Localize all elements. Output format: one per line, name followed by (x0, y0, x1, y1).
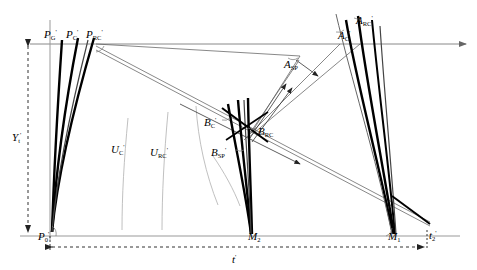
curve-left-4 (52, 40, 88, 232)
label-B-SP-prime: BSP' (211, 143, 226, 159)
left-curve-cluster (52, 38, 94, 232)
label-P-RC-prime: PRC' (86, 25, 103, 41)
label-t-prime: t' (232, 250, 236, 266)
label-A-SP-prime: ASP' (284, 55, 299, 71)
label-P-G-prime: PG' (44, 25, 57, 41)
label-P-0-prime: P0' (38, 227, 49, 243)
chord-right (392, 196, 430, 224)
arc-URC (162, 112, 168, 230)
label-U-RC-prime: URC' (150, 143, 168, 159)
label-Y-t-prime: Yt' (12, 128, 21, 144)
angle-arc-group (52, 18, 392, 236)
axis-group (20, 20, 466, 240)
curve-right-2 (358, 16, 394, 234)
faint-arc-family (122, 106, 240, 230)
label-t-2-prime: t2' (429, 226, 437, 242)
arrow-ASP (296, 60, 318, 76)
label-A-RC-prime: ARC' (356, 11, 373, 27)
label-M-2: M2 (248, 227, 260, 243)
label-U-C-prime: UC' (111, 140, 125, 156)
figure-canvas: PG' PC' PRC' ARC' AC' ASP' BC' BRC BSP' … (0, 0, 477, 270)
middle-curve-cluster (222, 98, 268, 234)
ray-short-top (96, 44, 300, 56)
label-M-1: M1 (388, 227, 400, 243)
label-B-RC: BRC (258, 122, 273, 138)
label-P-C-prime: PC' (66, 25, 78, 41)
label-B-C-prime: BC' (204, 113, 216, 129)
label-A-C-prime: AC' (338, 26, 350, 42)
curve-right-1 (346, 20, 393, 234)
arc-UC (122, 118, 128, 230)
arc-aux-2 (213, 156, 240, 206)
